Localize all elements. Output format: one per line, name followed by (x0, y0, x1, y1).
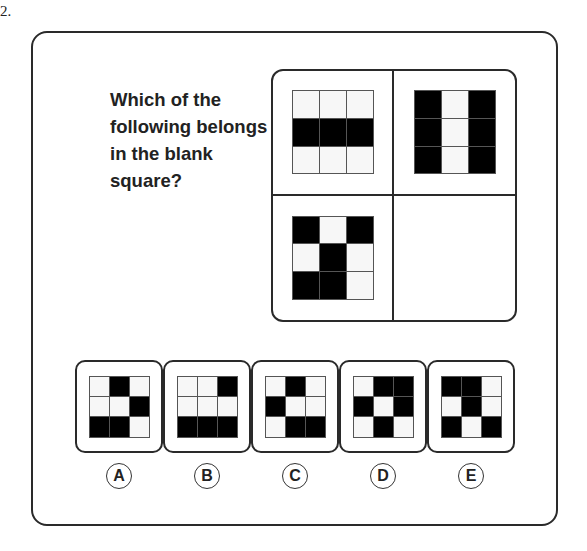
empty-square (178, 397, 197, 416)
empty-square (347, 91, 373, 118)
filled-square (286, 377, 305, 396)
filled-square (415, 119, 441, 146)
filled-square (178, 417, 197, 436)
pattern-grid (292, 90, 374, 174)
filled-square (347, 217, 373, 244)
empty-square (462, 417, 481, 436)
option-d-box[interactable] (339, 360, 427, 453)
option-e-label[interactable]: E (458, 463, 484, 489)
filled-square (469, 119, 495, 146)
empty-square (347, 244, 373, 271)
empty-square (394, 417, 413, 436)
filled-square (394, 397, 413, 416)
filled-square (442, 377, 461, 396)
filled-square (293, 272, 319, 299)
empty-square (198, 397, 217, 416)
pattern-grid (414, 90, 496, 174)
filled-square (293, 217, 319, 244)
empty-square (320, 147, 346, 174)
filled-square (374, 417, 393, 436)
filled-square (320, 119, 346, 146)
filled-square (394, 377, 413, 396)
matrix-cell-top-right (394, 71, 515, 196)
filled-square (306, 417, 325, 436)
option-a-box[interactable] (75, 360, 163, 453)
pattern-grid (441, 376, 502, 438)
filled-square (374, 377, 393, 396)
empty-square (354, 377, 373, 396)
pattern-grid (89, 376, 150, 438)
empty-square (198, 377, 217, 396)
filled-square (469, 147, 495, 174)
option-d-label[interactable]: D (370, 463, 396, 489)
matrix-cell-blank (394, 196, 515, 321)
matrix-cell-top-left (273, 71, 394, 196)
answer-options (75, 360, 515, 453)
empty-square (442, 147, 468, 174)
empty-square (442, 91, 468, 118)
question-number: 2. (0, 3, 11, 20)
filled-square (415, 147, 441, 174)
empty-square (306, 377, 325, 396)
filled-square (482, 417, 501, 436)
empty-square (442, 397, 461, 416)
option-b-box[interactable] (163, 360, 251, 453)
pattern-grid (177, 376, 238, 438)
filled-square (320, 272, 346, 299)
filled-square (218, 377, 237, 396)
empty-square (110, 397, 129, 416)
filled-square (218, 417, 237, 436)
option-b-label[interactable]: B (194, 463, 220, 489)
filled-square (320, 244, 346, 271)
empty-square (347, 272, 373, 299)
option-e-box[interactable] (427, 360, 515, 453)
empty-square (293, 244, 319, 271)
filled-square (293, 119, 319, 146)
option-labels: A B C D E (75, 463, 515, 489)
empty-square (306, 397, 325, 416)
empty-square (293, 147, 319, 174)
empty-square (293, 91, 319, 118)
pattern-grid (292, 216, 374, 300)
empty-square (90, 397, 109, 416)
empty-square (354, 417, 373, 436)
empty-square (130, 377, 149, 396)
empty-square (266, 417, 285, 436)
filled-square (462, 397, 481, 416)
filled-square (462, 377, 481, 396)
filled-square (442, 417, 461, 436)
matrix-cell-bottom-left (273, 196, 394, 321)
empty-square (266, 377, 285, 396)
pattern-grid (353, 376, 414, 438)
puzzle-matrix (271, 69, 517, 322)
empty-square (482, 377, 501, 396)
option-c-box[interactable] (251, 360, 339, 453)
filled-square (415, 91, 441, 118)
filled-square (90, 417, 109, 436)
filled-square (469, 91, 495, 118)
filled-square (110, 417, 129, 436)
empty-square (178, 377, 197, 396)
empty-square (320, 217, 346, 244)
empty-square (347, 147, 373, 174)
empty-square (374, 397, 393, 416)
filled-square (130, 397, 149, 416)
empty-square (218, 397, 237, 416)
filled-square (198, 417, 217, 436)
filled-square (110, 377, 129, 396)
question-text: Which of the following belongs in the bl… (110, 86, 275, 194)
option-c-label[interactable]: C (282, 463, 308, 489)
empty-square (442, 119, 468, 146)
filled-square (266, 397, 285, 416)
empty-square (90, 377, 109, 396)
filled-square (286, 417, 305, 436)
empty-square (130, 417, 149, 436)
empty-square (482, 397, 501, 416)
filled-square (354, 397, 373, 416)
option-a-label[interactable]: A (106, 463, 132, 489)
pattern-grid (265, 376, 326, 438)
empty-square (320, 91, 346, 118)
filled-square (347, 119, 373, 146)
empty-square (286, 397, 305, 416)
